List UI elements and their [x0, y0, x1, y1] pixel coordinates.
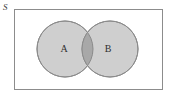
- venn-diagram-figure: S A B: [0, 0, 175, 98]
- set-b-label: B: [105, 43, 112, 54]
- set-a-label: A: [60, 43, 68, 54]
- venn-canvas: A B: [0, 0, 175, 98]
